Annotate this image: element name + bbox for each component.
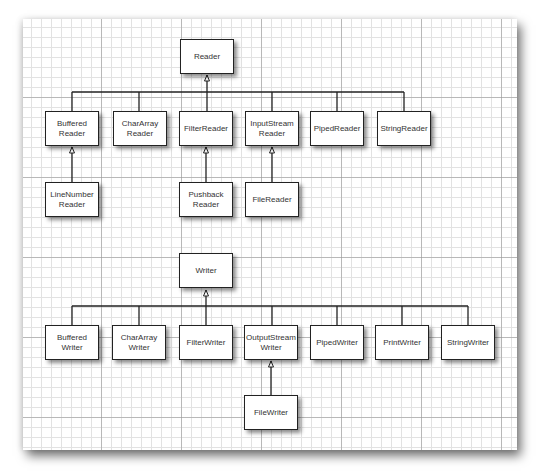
class-label: Buffered Writer	[57, 333, 87, 353]
class-box-writer: Writer	[179, 253, 233, 288]
inheritance-arrow-icon	[204, 147, 209, 153]
class-box-file-writer: FileWriter	[244, 395, 298, 430]
class-box-filter-writer: FilterWriter	[179, 325, 233, 360]
class-label: PipedReader	[314, 124, 361, 134]
inheritance-arrow-icon	[270, 147, 275, 153]
inheritance-arrow-icon	[70, 147, 75, 153]
inheritance-arrow-icon	[205, 75, 210, 81]
class-label: Writer	[195, 266, 216, 276]
class-box-string-writer: StringWriter	[441, 325, 495, 360]
class-box-file-reader: FileReader	[245, 182, 299, 217]
class-box-print-writer: PrintWriter	[375, 325, 429, 360]
class-box-filter-reader: FilterReader	[179, 111, 233, 146]
inheritance-arrow-icon	[269, 361, 274, 367]
class-box-piped-reader: PipedReader	[310, 111, 364, 146]
class-label: Pushback Reader	[188, 190, 223, 210]
class-box-linenumber-reader: LineNumber Reader	[45, 182, 99, 217]
class-label: FilterReader	[184, 124, 228, 134]
class-box-string-reader: StringReader	[377, 111, 431, 146]
class-box-chararray-reader: CharArray Reader	[113, 111, 167, 146]
class-label: PipedWriter	[316, 338, 358, 348]
class-label: PrintWriter	[383, 338, 421, 348]
class-box-buffered-writer: Buffered Writer	[45, 325, 99, 360]
class-box-chararray-writer: CharArray Writer	[112, 325, 166, 360]
class-label: FileWriter	[254, 408, 288, 418]
class-label: Buffered Reader	[57, 119, 87, 139]
class-box-buffered-reader: Buffered Reader	[45, 111, 99, 146]
class-box-piped-writer: PipedWriter	[310, 325, 364, 360]
class-box-reader: Reader	[180, 39, 234, 74]
class-label: CharArray Writer	[121, 333, 157, 353]
class-label: FilterWriter	[187, 338, 226, 348]
class-label: InputStream Reader	[250, 119, 294, 139]
class-box-inputstream-reader: InputStream Reader	[245, 111, 299, 146]
class-label: LineNumber Reader	[50, 190, 94, 210]
class-label: CharArray Reader	[122, 119, 158, 139]
class-box-outputstream-writer: OutputStream Writer	[244, 325, 298, 360]
class-label: Reader	[194, 52, 220, 62]
class-label: FileReader	[252, 195, 291, 205]
class-label: OutputStream Writer	[246, 333, 296, 353]
inheritance-arrow-icon	[204, 290, 209, 296]
class-box-pushback-reader: Pushback Reader	[179, 182, 233, 217]
class-label: StringReader	[380, 124, 427, 134]
class-label: StringWriter	[447, 338, 489, 348]
